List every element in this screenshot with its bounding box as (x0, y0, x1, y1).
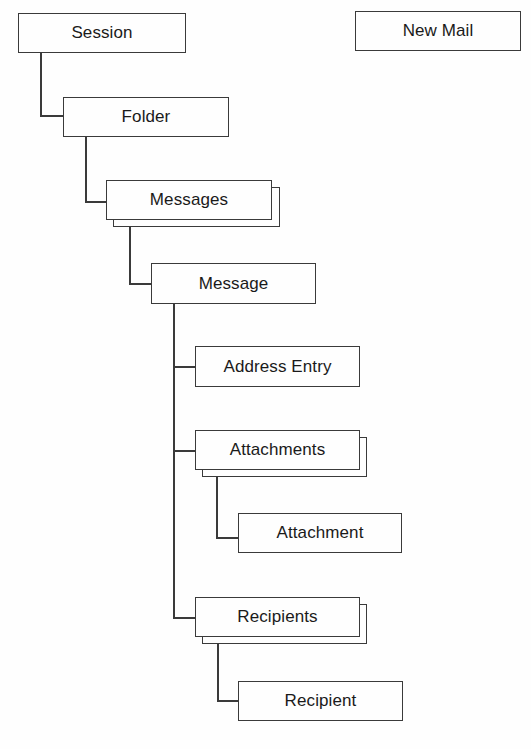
connector-recipients-recipient-v (217, 643, 219, 701)
connector-attachments-attachment-h (216, 537, 238, 539)
connector-message-attachments-h (173, 450, 195, 452)
connector-message-address-entry-h (173, 366, 195, 368)
node-attachments: Attachments (195, 430, 360, 470)
connector-messages-message-h (129, 283, 151, 285)
node-session: Session (18, 13, 186, 53)
connector-attachments-attachment-v (216, 476, 218, 538)
connector-recipients-recipient-h (217, 700, 238, 702)
node-folder: Folder (63, 97, 229, 137)
connector-session-folder-v (40, 52, 42, 116)
connector-message-recipients-h (173, 617, 195, 619)
node-recipients-label: Recipients (237, 607, 317, 627)
node-address-entry: Address Entry (195, 346, 360, 387)
node-attachments-label: Attachments (230, 440, 326, 460)
node-message: Message (151, 263, 316, 304)
node-recipient-label: Recipient (285, 691, 357, 711)
node-session-label: Session (71, 23, 132, 43)
node-message-label: Message (199, 274, 269, 294)
node-attachment-label: Attachment (277, 523, 364, 543)
connector-messages-message-v (129, 226, 131, 284)
node-recipient: Recipient (238, 681, 403, 721)
connector-folder-messages-h (85, 201, 106, 203)
connector-folder-messages-v (85, 136, 87, 203)
node-messages-label: Messages (150, 190, 228, 210)
node-new-mail: New Mail (355, 11, 521, 51)
connector-session-folder-h (40, 115, 63, 117)
node-new-mail-label: New Mail (403, 21, 474, 41)
node-messages: Messages (106, 180, 272, 220)
node-address-entry-label: Address Entry (223, 357, 331, 377)
node-attachment: Attachment (238, 513, 402, 553)
connector-message-trunk (173, 303, 175, 618)
node-recipients: Recipients (195, 597, 360, 637)
node-folder-label: Folder (122, 107, 171, 127)
